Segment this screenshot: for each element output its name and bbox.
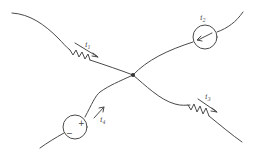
wire-4-inner bbox=[85, 75, 133, 117]
label-i2: i2 bbox=[200, 13, 206, 23]
wire-4-outer bbox=[40, 133, 64, 148]
resistor-3-icon bbox=[188, 104, 209, 116]
wire-2-outer bbox=[217, 12, 243, 32]
branch-3: i3 bbox=[133, 75, 242, 142]
junction-node bbox=[131, 73, 135, 77]
wire-1-inner bbox=[90, 60, 133, 75]
plus-sign: + bbox=[78, 119, 85, 128]
branch-1: i1 bbox=[12, 13, 133, 75]
wire-3-outer bbox=[209, 116, 242, 142]
branch-2: i2 bbox=[133, 12, 243, 75]
wire-3-inner bbox=[133, 75, 190, 105]
label-i1: i1 bbox=[85, 40, 91, 50]
circuit-diagram: i1 i2 i3 + − i4 bbox=[0, 0, 258, 160]
branch-4: + − i4 bbox=[40, 75, 133, 148]
resistor-1-icon bbox=[70, 50, 90, 60]
minus-sign: − bbox=[66, 129, 73, 138]
wire-2-inner bbox=[133, 42, 193, 75]
wire-1-outer bbox=[12, 13, 70, 50]
label-i4: i4 bbox=[100, 115, 106, 125]
label-i3: i3 bbox=[205, 92, 211, 102]
